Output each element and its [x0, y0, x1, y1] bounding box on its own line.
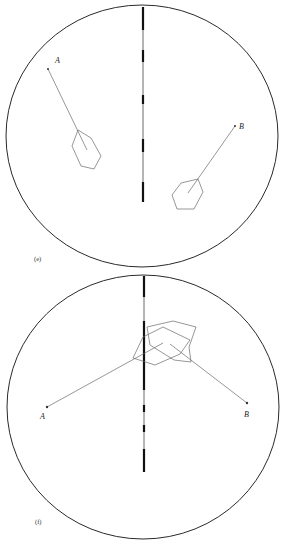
point-a-label: A — [39, 412, 45, 421]
hexagon-ring-1 — [133, 327, 190, 365]
point-a-marker — [47, 68, 49, 70]
panel-label-f: (f) — [35, 518, 42, 526]
point-b-label: B — [239, 122, 244, 131]
molecule-b-e: B — [172, 122, 244, 209]
panel-label-e: (e) — [34, 255, 41, 263]
bond-line-a — [48, 69, 87, 150]
panel-e: A B (e) — [6, 5, 278, 267]
bond-line-b — [170, 344, 247, 403]
panel-f: A B (f) — [7, 275, 279, 539]
point-b-label: B — [244, 410, 249, 419]
boundary-circle-e — [6, 5, 278, 267]
bond-line-b — [188, 126, 235, 193]
point-b-marker — [234, 125, 236, 127]
point-a-marker — [46, 406, 48, 408]
diagram-canvas: A B (e) — [0, 0, 287, 545]
point-a-label: A — [54, 56, 60, 65]
molecule-a-e: A — [47, 56, 101, 169]
bond-line-a — [47, 343, 163, 407]
point-b-marker — [246, 402, 248, 404]
hexagon-ring-b — [172, 179, 203, 209]
